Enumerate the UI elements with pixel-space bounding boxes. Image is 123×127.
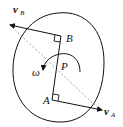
label-b: B xyxy=(66,32,73,44)
label-va-sub: A xyxy=(110,111,116,119)
velocity-b-arrow xyxy=(10,25,61,36)
label-p: P xyxy=(60,60,68,72)
body-outline xyxy=(13,13,104,122)
label-omega: ω xyxy=(32,66,40,78)
label-va: v xyxy=(104,105,109,117)
segment-ab xyxy=(52,36,61,100)
label-vb-sub: B xyxy=(20,9,25,17)
label-vb: v xyxy=(13,3,18,15)
rigid-body-diagram: B A P ω v B v A xyxy=(0,0,123,127)
label-a: A xyxy=(42,94,50,106)
